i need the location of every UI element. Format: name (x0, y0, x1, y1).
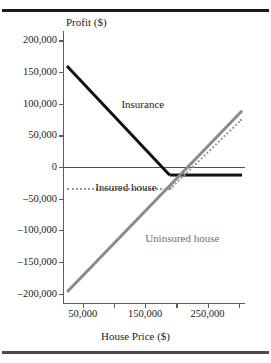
y-tick-label: –100,000 (18, 225, 57, 236)
y-tick (59, 135, 64, 136)
y-tick (59, 40, 64, 41)
x-tick (176, 303, 177, 308)
y-tick (59, 230, 64, 231)
y-axis-title: Profit ($) (66, 16, 107, 28)
y-tick (59, 199, 64, 200)
y-tick (59, 262, 64, 263)
plot-area: 200,000150,000100,00050,0000–50,000–100,… (64, 31, 245, 303)
y-tick (59, 294, 64, 295)
x-tick-label: 150,000 (128, 309, 162, 320)
x-axis-line (63, 303, 245, 304)
series-segment (66, 65, 171, 176)
figure-container: Profit ($) House Price ($) 200,000150,00… (0, 0, 271, 363)
zero-line (64, 167, 245, 168)
y-tick-label: –200,000 (18, 288, 57, 299)
series-annotation: Insurance (121, 99, 164, 110)
y-tick-label: 0 (52, 162, 57, 173)
x-tick (239, 303, 240, 308)
x-tick (114, 303, 115, 308)
series-annotation: Uninsured house (145, 233, 219, 244)
top-rule (2, 9, 269, 12)
series-annotation: Insured house (95, 182, 156, 193)
x-tick-label: 250,000 (190, 309, 224, 320)
y-tick-label: 50,000 (28, 130, 57, 141)
y-tick-label: 200,000 (23, 35, 57, 46)
bottom-rule (2, 351, 269, 354)
x-tick-label: 50,000 (68, 309, 97, 320)
y-tick (59, 72, 64, 73)
series-segment (169, 119, 242, 190)
y-tick-label: 100,000 (23, 98, 57, 109)
y-tick-label: –50,000 (23, 193, 57, 204)
x-axis-title: House Price ($) (0, 330, 271, 342)
y-tick-label: 150,000 (23, 67, 57, 78)
series-segment (66, 110, 243, 293)
y-tick (59, 104, 64, 105)
y-tick-label: –150,000 (18, 257, 57, 268)
